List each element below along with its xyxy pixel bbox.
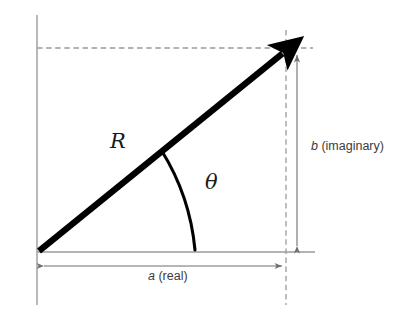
- figure-canvas: R θ a (real) b (imaginary): [0, 0, 393, 325]
- magnitude-label: R: [110, 131, 126, 152]
- angle-arc: [162, 151, 196, 251]
- imaginary-axis-label-unit: (imaginary): [318, 139, 384, 153]
- real-axis-label-variable: a: [148, 269, 155, 283]
- real-axis-label-unit: (real): [155, 269, 188, 283]
- phasor-diagram-svg: [0, 0, 393, 325]
- angle-label: θ: [205, 172, 218, 193]
- real-axis-label: a (real): [148, 270, 188, 283]
- resultant-vector-arrow: [39, 54, 283, 252]
- imaginary-axis-label-variable: b: [311, 139, 318, 153]
- imaginary-axis-label: b (imaginary): [311, 140, 384, 153]
